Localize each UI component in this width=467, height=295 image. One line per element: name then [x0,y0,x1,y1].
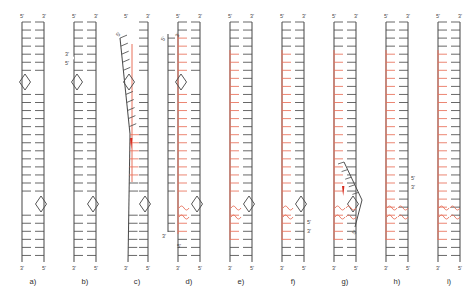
rung-left [123,67,130,70]
figure-canvas: 5'3'3'5'a)3'5'5'3'3'5'b)5'5'3'3'5'c)5'3'… [0,0,467,295]
svg-text:5': 5' [332,13,336,19]
svg-text:3': 3' [176,265,180,271]
bubble-diamond [72,74,83,90]
svg-text:5': 5' [65,60,69,66]
svg-text:5': 5' [176,13,180,19]
panel-a: 5'3'3'5'a) [20,13,47,286]
panel-d: 5'3'3'5'5'3'3'5'd) [160,13,203,286]
svg-text:3': 3' [280,265,284,271]
svg-text:3': 3' [436,265,440,271]
rung-left [129,124,136,127]
squiggle-mark [398,206,408,210]
svg-text:3': 3' [228,265,232,271]
svg-text:5': 5' [436,13,440,19]
svg-text:5': 5' [406,265,410,271]
squiggle-mark [231,206,241,210]
bubble-diamond [296,196,307,212]
svg-text:3': 3' [250,13,254,19]
svg-text:5': 5' [351,229,358,235]
svg-text:3': 3' [458,13,462,19]
svg-text:5': 5' [384,13,388,19]
bubble-diamond [244,196,255,212]
panel-e: 5'3'3'5'e) [228,13,255,286]
panel-c: 5'5'3'3'5'c) [115,13,151,286]
svg-text:5': 5' [72,13,76,19]
svg-text:5': 5' [177,243,181,249]
squiggle-mark [179,206,189,210]
squiggle-mark [387,206,397,210]
svg-text:3': 3' [307,228,311,234]
bubble-diamond [88,196,99,212]
rung-left [123,59,130,62]
dna-panels-svg: 5'3'3'5'a)3'5'5'3'3'5'b)5'5'3'3'5'c)5'3'… [0,0,467,295]
panel-h: 5'3'5'3'3'5'h) [384,13,415,286]
svg-text:5': 5' [198,265,202,271]
svg-text:3': 3' [124,265,128,271]
branch-rung [352,192,358,194]
squiggle-mark [450,206,460,210]
rung-left [127,100,134,103]
bubble-diamond [140,196,151,212]
svg-text:5': 5' [280,13,284,19]
svg-text:5': 5' [42,265,46,271]
bubble-diamond [176,74,187,90]
svg-text:3': 3' [72,265,76,271]
svg-text:3': 3' [302,13,306,19]
bubble-diamond [20,74,31,90]
bubble-diamond [192,196,203,212]
svg-text:5': 5' [354,265,358,271]
svg-text:3': 3' [174,32,181,39]
squiggle-mark [439,206,449,210]
svg-text:3': 3' [332,265,336,271]
panel-f: 5'3'5'3'3'5'f) [280,13,311,286]
svg-text:3': 3' [162,233,166,239]
svg-text:5': 5' [115,31,122,37]
squiggle-mark [335,206,345,210]
svg-text:3': 3' [411,184,415,190]
svg-text:3': 3' [94,13,98,19]
panel-i: 5'3'3'5'i) [436,13,462,286]
rung-left [121,43,128,46]
svg-text:3': 3' [354,13,358,19]
svg-text:5': 5' [250,265,254,271]
rung-left [120,35,127,38]
svg-text:3': 3' [384,265,388,271]
svg-text:5': 5' [458,265,462,271]
svg-text:3': 3' [406,13,410,19]
svg-text:3': 3' [42,13,46,19]
branch-rung [345,177,351,179]
svg-text:5': 5' [228,13,232,19]
panel-g: 5'5'3'3'5'g) [332,13,362,286]
branch-rung [338,162,344,164]
rung-left [122,51,129,54]
svg-text:5': 5' [411,175,415,181]
svg-text:3': 3' [20,265,24,271]
branch-rung [342,170,348,172]
rung-left [128,108,135,111]
bubble-diamond [36,196,47,212]
svg-text:5': 5' [307,219,311,225]
svg-text:5': 5' [20,13,24,19]
branch-rung [349,185,355,187]
svg-text:5': 5' [302,265,306,271]
panel-b: 3'5'5'3'3'5'b) [65,13,99,286]
svg-text:3': 3' [65,51,69,57]
left-backbone-lower [128,134,130,262]
svg-text:3': 3' [198,13,202,19]
svg-text:5': 5' [94,265,98,271]
svg-text:5': 5' [160,35,167,42]
caption-strip [0,283,467,295]
svg-text:3': 3' [146,13,150,19]
squiggle-mark [283,206,293,210]
svg-text:5': 5' [146,265,150,271]
svg-text:5': 5' [124,13,128,19]
